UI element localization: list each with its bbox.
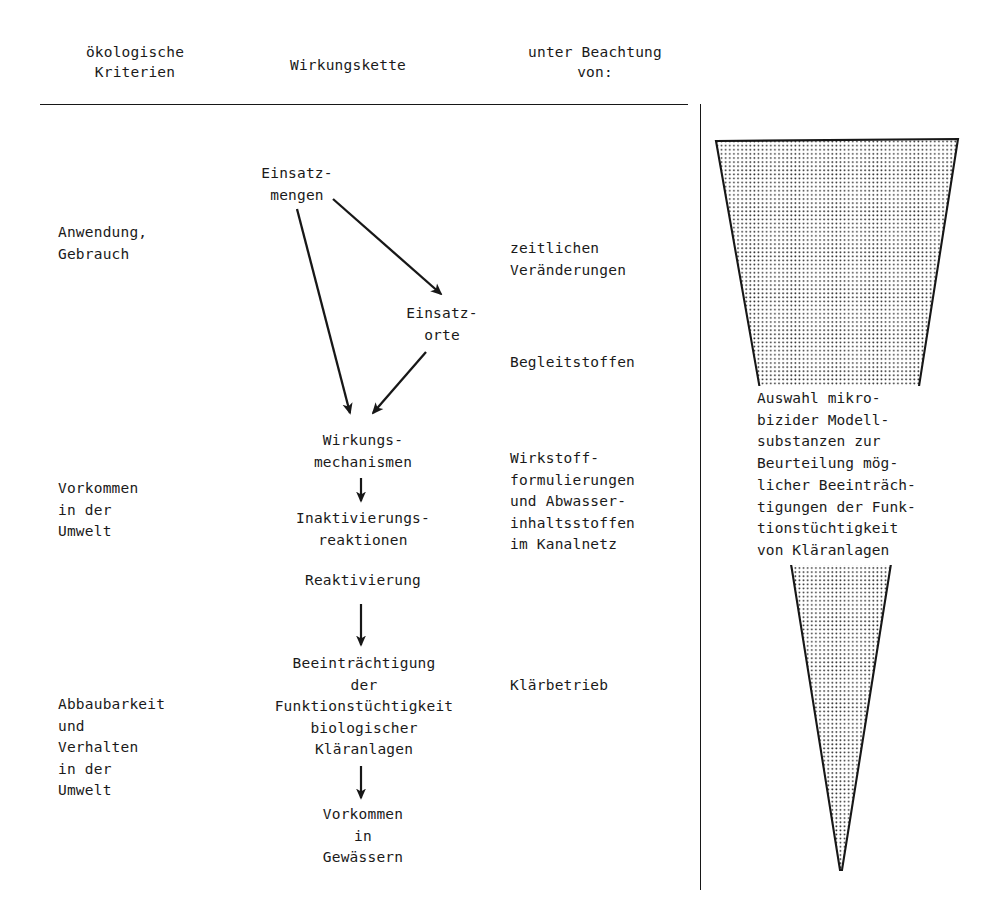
arrow-mengen-to-orte xyxy=(333,199,441,294)
arrow-orte-to-mechanismen xyxy=(373,352,426,413)
arrow-mengen-to-mechanismen xyxy=(297,209,350,413)
diagram-canvas: ökologische Kriterien Wirkungskette unte… xyxy=(0,0,995,922)
funnel-caption-text: Auswahl mikro- bizider Modell- substanze… xyxy=(757,386,953,565)
